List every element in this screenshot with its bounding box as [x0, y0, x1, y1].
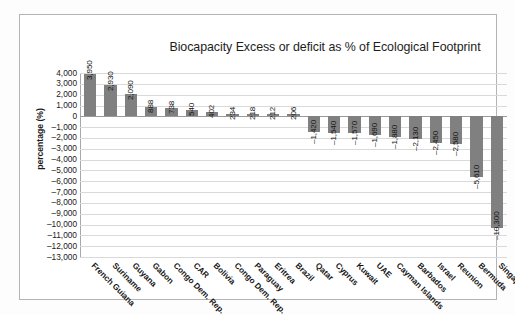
- x-tick-label: Guyana: [130, 261, 136, 267]
- gridline: [80, 149, 507, 150]
- figure-canvas: Biocapacity Excess or deficit as % of Ec…: [0, 0, 515, 315]
- x-tick-label: Congo Dem. Rep.: [171, 261, 177, 267]
- gridline: [80, 246, 507, 247]
- x-tick-label: UAE: [374, 261, 380, 267]
- chart-title: Biocapacity Excess or deficit as % of Ec…: [140, 38, 510, 56]
- y-tick-label: –12,000: [25, 242, 77, 251]
- bar-value-label: 402: [207, 105, 216, 118]
- y-tick-label: –1,000: [25, 123, 77, 132]
- x-tick-label: Brazil: [293, 261, 299, 267]
- bar-value-label: 234: [228, 107, 237, 120]
- y-tick-label: –8,000: [25, 198, 77, 207]
- x-tick-label: Israel: [435, 261, 441, 267]
- plot-area: 3,9502,9302,090888738540402234218212206–…: [80, 73, 507, 257]
- x-tick-label: Cyprus: [334, 261, 340, 267]
- bar-value-label: –1,690: [370, 122, 379, 146]
- y-tick-label: –3,000: [25, 144, 77, 153]
- x-tick-label: Paraguay: [252, 261, 258, 267]
- bar-value-label: –2,580: [451, 132, 460, 156]
- bar-value-label: –5,610: [472, 165, 481, 189]
- gridline: [80, 160, 507, 161]
- y-axis-line: [80, 73, 81, 257]
- bar-value-label: 3,950: [85, 60, 94, 80]
- bar-value-label: –2,130: [411, 127, 420, 151]
- bar-value-label: –1,420: [309, 120, 318, 144]
- gridline: [80, 84, 507, 85]
- x-tick-label: Gabon: [151, 261, 157, 267]
- gridline: [80, 214, 507, 215]
- y-tick-label: –10,000: [25, 220, 77, 229]
- gridline: [80, 225, 507, 226]
- bar-value-label: 540: [187, 103, 196, 116]
- y-tick-label: 4,000: [25, 69, 77, 78]
- gridline: [80, 257, 507, 258]
- bar-value-label: 2,090: [126, 80, 135, 100]
- bar-value-label: –2,450: [431, 131, 440, 155]
- x-tick-label: CAR: [191, 261, 197, 267]
- x-tick-label: Bolivia: [212, 261, 218, 267]
- bar-value-label: 218: [248, 107, 257, 120]
- gridline: [80, 181, 507, 182]
- x-tick-label: Suriname: [110, 261, 116, 267]
- x-tick-label: Congo Dem. Rep.: [232, 261, 238, 267]
- bar-value-label: 2,930: [106, 71, 115, 91]
- gridline: [80, 170, 507, 171]
- y-tick-label: 0: [25, 112, 77, 121]
- x-tick-label: Kuwait: [354, 261, 360, 267]
- y-tick-label: –13,000: [25, 253, 77, 262]
- y-tick-label: –4,000: [25, 155, 77, 164]
- y-tick-label: –5,000: [25, 166, 77, 175]
- gridline: [80, 235, 507, 236]
- bar-value-label: –10,300: [492, 211, 501, 240]
- x-tick-label: Barbados: [415, 261, 421, 267]
- bar-value-label: 206: [289, 107, 298, 120]
- bar-value-label: –1,880: [390, 124, 399, 148]
- x-axis-category-labels: French GuianaSurinameGuyanaGabonCongo De…: [80, 259, 507, 315]
- y-tick-label: 2,000: [25, 90, 77, 99]
- bar-value-label: 888: [146, 99, 155, 112]
- x-tick-label: Eritrea: [273, 261, 279, 267]
- gridline: [80, 138, 507, 139]
- gridline: [80, 192, 507, 193]
- x-tick-label: Reunion: [456, 261, 462, 267]
- x-tick-label: Cayman Islands: [395, 261, 401, 267]
- x-tick-label: French Guiana: [90, 261, 96, 267]
- x-tick-label: Qatar: [313, 261, 319, 267]
- chart-frame: Biocapacity Excess or deficit as % of Ec…: [19, 14, 497, 300]
- bar-value-label: 738: [167, 101, 176, 114]
- gridline: [80, 95, 507, 96]
- bar-value-label: –1,540: [329, 121, 338, 145]
- x-tick-label: Bermuda: [476, 261, 482, 267]
- y-tick-label: 3,000: [25, 79, 77, 88]
- y-tick-label: –2,000: [25, 133, 77, 142]
- y-tick-label: –11,000: [25, 231, 77, 240]
- y-tick-label: –6,000: [25, 177, 77, 186]
- y-axis-tick-labels: 4,0003,0002,0001,0000–1,000–2,000–3,000–…: [20, 73, 77, 257]
- y-tick-label: –7,000: [25, 188, 77, 197]
- gridline: [80, 73, 507, 74]
- x-tick-label: Singapore: [496, 261, 502, 267]
- y-tick-label: 1,000: [25, 101, 77, 110]
- gridline: [80, 203, 507, 204]
- gridline: [80, 127, 507, 128]
- y-tick-label: –9,000: [25, 209, 77, 218]
- bar-value-label: –1,570: [350, 121, 359, 145]
- bar-value-label: 212: [268, 107, 277, 120]
